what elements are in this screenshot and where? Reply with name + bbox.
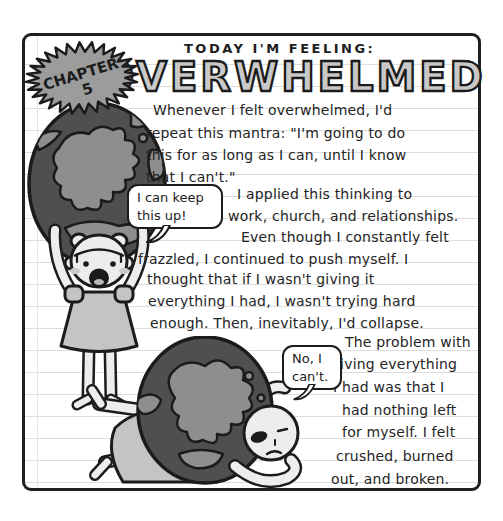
globe-icon-2 (137, 337, 272, 483)
story-line: I had was that I (333, 379, 444, 395)
story-line: repeat this mantra: "I'm going to do (146, 125, 405, 141)
story-line: giving everything (331, 356, 457, 372)
story-line: frazzled, I continued to push myself. I (138, 251, 408, 267)
story-line: Whenever I felt overwhelmed, I'd (153, 102, 392, 118)
story-line: out, and broken. (331, 471, 449, 487)
speech-bubble-tail (146, 225, 172, 245)
story-line: thought that if I wasn't giving it (147, 271, 375, 287)
standing-head (65, 234, 133, 287)
crushed-head (244, 406, 298, 460)
story-line: for myself. I felt (342, 424, 455, 440)
comic-page: TODAY I'M FEELING: OVERWHELMED CHAPTER 5 (0, 0, 503, 521)
story-line: work, church, and relationships. (228, 208, 458, 224)
story-line: had nothing left (342, 402, 457, 418)
story-line: The problem with (345, 334, 471, 350)
story-line: crushed, burned (336, 448, 454, 464)
page-title: OVERWHELMED (100, 57, 486, 97)
story-line: this for as long as I can, until I know (146, 147, 406, 163)
speech-bubble-standing: I can keep this up! (127, 184, 223, 229)
chapter-badge: CHAPTER 5 (21, 34, 142, 122)
story-line: I applied this thinking to (237, 186, 412, 202)
story-line: Even though I constantly felt (241, 229, 449, 245)
speech-bubble-tail-2 (293, 384, 317, 402)
story-line: everything I had, I wasn't trying hard (148, 293, 415, 309)
story-line: enough. Then, inevitably, I'd collapse. (150, 315, 424, 331)
story-line: that I can't." (146, 169, 236, 185)
